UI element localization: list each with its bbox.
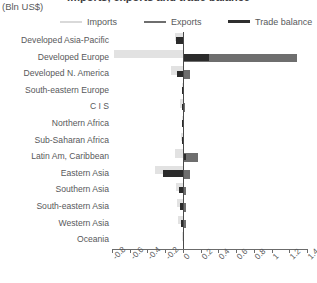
bar-trade-balance[interactable] — [176, 37, 183, 44]
category-label: Developed Europe — [0, 52, 109, 62]
chart-legend: Imports Exports Trade balance — [60, 12, 315, 26]
category-axis-labels: Developed Asia-PacificDeveloped EuropeDe… — [0, 32, 109, 248]
bar-imports[interactable] — [114, 50, 183, 58]
bar-imports[interactable] — [175, 149, 183, 157]
legend-label-trade-balance: Trade balance — [255, 17, 312, 27]
bar-group — [112, 82, 307, 99]
legend-swatch-trade-balance — [228, 20, 250, 23]
zero-line — [183, 32, 184, 252]
category-label: Oceania — [0, 234, 109, 244]
bars-canvas — [112, 32, 307, 248]
category-label: Northern Africa — [0, 118, 109, 128]
bar-group — [112, 98, 307, 115]
bar-group — [112, 115, 307, 132]
chart-title: Imports, exports and trade balance — [0, 0, 317, 3]
x-axis-tick-label: 0.6 — [235, 247, 249, 261]
legend-item-exports[interactable]: Exports — [144, 12, 202, 26]
bar-group — [112, 231, 307, 248]
category-label: South-eastern Asia — [0, 201, 109, 211]
chart-root: Imports, exports and trade balance (Bln … — [0, 0, 317, 283]
bar-trade-balance[interactable] — [183, 54, 210, 61]
chart-title-clip: Imports, exports and trade balance — [0, 0, 317, 3]
bar-group — [112, 32, 307, 49]
bar-group — [112, 49, 307, 66]
category-label: Developed N. America — [0, 68, 109, 78]
plot-area: Developed Asia-PacificDeveloped EuropeDe… — [0, 32, 317, 254]
category-label: Developed Asia-Pacific — [0, 35, 109, 45]
legend-swatch-imports — [60, 21, 82, 23]
x-axis: -0.8-0.6-0.4-0.200.20.40.60.811.21.4 — [112, 249, 307, 250]
legend-swatch-exports — [144, 21, 166, 23]
category-label: Latin Am, Caribbean — [0, 151, 109, 161]
bar-exports[interactable] — [183, 170, 191, 179]
legend-item-trade-balance[interactable]: Trade balance — [228, 12, 312, 26]
category-label: Western Asia — [0, 218, 109, 228]
bar-trade-balance[interactable] — [163, 170, 183, 177]
legend-item-imports[interactable]: Imports — [60, 12, 117, 26]
x-axis-tick-label: 1.2 — [288, 247, 302, 261]
bar-group — [112, 198, 307, 215]
bar-group — [112, 215, 307, 232]
category-label: South-eastern Europe — [0, 85, 109, 95]
bar-group — [112, 165, 307, 182]
category-label: Sub-Saharan Africa — [0, 135, 109, 145]
x-axis-tick-label: 0.2 — [200, 247, 214, 261]
bar-group — [112, 65, 307, 82]
legend-label-exports: Exports — [171, 17, 202, 27]
bar-group — [112, 148, 307, 165]
category-label: Eastern Asia — [0, 168, 109, 178]
x-axis-tick-label: 0.8 — [253, 247, 267, 261]
chart-units-label: (Bln US$) — [2, 1, 43, 12]
x-axis-tick-label: 0.4 — [217, 247, 231, 261]
bar-group — [112, 132, 307, 149]
category-label: C I S — [0, 101, 109, 111]
legend-label-imports: Imports — [87, 17, 117, 27]
bar-group — [112, 182, 307, 199]
category-label: Southern Asia — [0, 184, 109, 194]
